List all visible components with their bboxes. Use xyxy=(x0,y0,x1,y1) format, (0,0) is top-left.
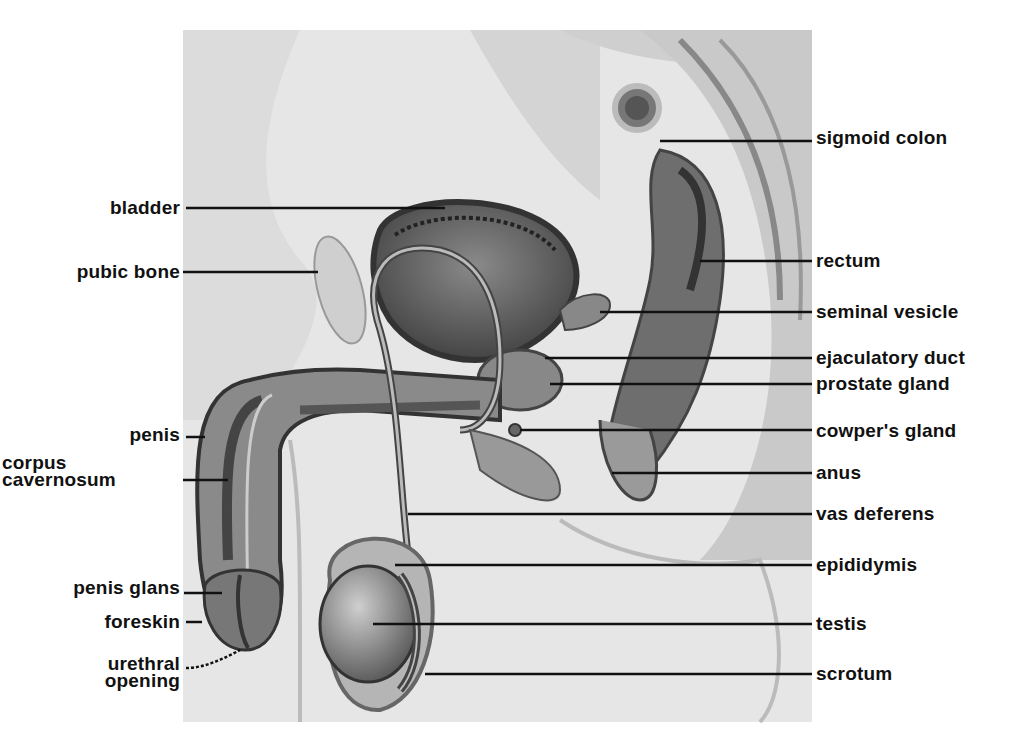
label-sigmoid-colon: sigmoid colon xyxy=(816,128,947,147)
label-rectum: rectum xyxy=(816,251,881,270)
label-penis-glans: penis glans xyxy=(73,578,180,597)
label-bladder: bladder xyxy=(110,198,180,217)
bladder-shape xyxy=(373,202,576,360)
anatomy-diagram: bladder pubic bone penis corpus cavernos… xyxy=(0,0,1035,742)
label-cowpers-gland: cowper's gland xyxy=(816,421,956,440)
label-seminal-vesicle: seminal vesicle xyxy=(816,302,958,321)
label-testis: testis xyxy=(816,614,867,633)
label-foreskin: foreskin xyxy=(104,612,180,631)
label-vas-deferens: vas deferens xyxy=(816,504,935,523)
label-corpus-cavernosum-line2: cavernosum xyxy=(2,471,116,488)
label-epididymis: epididymis xyxy=(816,555,917,574)
label-pubic-bone: pubic bone xyxy=(77,262,180,281)
label-penis: penis xyxy=(129,425,180,444)
label-urethral-opening: urethral opening xyxy=(105,655,180,689)
label-anus: anus xyxy=(816,463,861,482)
label-urethral-opening-line2: opening xyxy=(105,672,180,689)
label-scrotum: scrotum xyxy=(816,664,892,683)
label-prostate-gland: prostate gland xyxy=(816,374,950,393)
label-corpus-cavernosum: corpus cavernosum xyxy=(2,454,116,488)
label-ejaculatory-duct: ejaculatory duct xyxy=(816,348,965,367)
